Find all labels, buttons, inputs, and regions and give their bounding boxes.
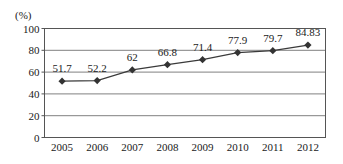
gridlines-group [45, 50, 326, 115]
x-axis-tick-label: 2011 [253, 141, 293, 153]
y-axis-tick-label: 20 [14, 110, 40, 122]
x-axis-tick-label: 2007 [112, 141, 152, 153]
line-chart: (%) 020406080100 20052006200720082009201… [0, 0, 343, 164]
x-axis-tick-label: 2010 [218, 141, 258, 153]
x-axis-tick-label: 2005 [42, 141, 82, 153]
data-point-marker [94, 77, 101, 84]
data-point-marker [199, 56, 206, 63]
y-axis-tick-label: 60 [14, 66, 40, 78]
data-point-marker [304, 41, 311, 48]
y-axis-tick-label: 40 [14, 88, 40, 100]
y-axis-tick-label: 0 [14, 132, 40, 144]
x-axis-tick-label: 2006 [77, 141, 117, 153]
x-axis-tick-label: 2009 [183, 141, 223, 153]
y-axis-tick-label: 80 [14, 44, 40, 56]
x-axis-tick-label: 2008 [147, 141, 187, 153]
data-point-label: 52.2 [74, 62, 120, 74]
data-point-marker [269, 47, 276, 54]
data-point-marker [58, 78, 65, 85]
chart-canvas [0, 0, 343, 164]
data-point-marker [164, 61, 171, 68]
x-axis-tick-label: 2012 [288, 141, 328, 153]
data-point-label: 84.83 [285, 26, 331, 38]
y-axis-tick-label: 100 [14, 23, 40, 35]
